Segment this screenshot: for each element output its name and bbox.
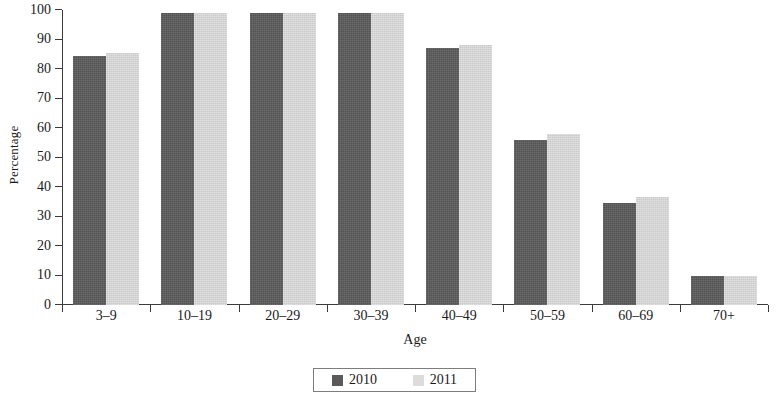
y-axis-tick: 30 bbox=[55, 216, 62, 217]
y-axis-title-text: Percentage bbox=[6, 125, 22, 184]
y-axis-tick-label: 100 bbox=[30, 3, 51, 17]
bar-group bbox=[592, 10, 680, 305]
x-axis-label: 10–19 bbox=[150, 308, 238, 324]
bar-2011-50–59 bbox=[547, 134, 580, 305]
y-axis-tick-label: 90 bbox=[37, 32, 51, 46]
y-axis-tick: 90 bbox=[55, 39, 62, 40]
y-axis-tick: 80 bbox=[55, 68, 62, 69]
bar-chart: Percentage 0102030405060708090100 3–910–… bbox=[0, 0, 779, 399]
bar-group bbox=[239, 10, 327, 305]
bar-group bbox=[327, 10, 415, 305]
legend-label-2011: 2011 bbox=[430, 373, 457, 387]
chart-legend: 2010 2011 bbox=[313, 368, 476, 392]
bar-2011-60–69 bbox=[636, 197, 669, 305]
bar-2010-60–69 bbox=[603, 203, 636, 305]
x-axis-label: 20–29 bbox=[239, 308, 327, 324]
x-axis-label: 30–39 bbox=[327, 308, 415, 324]
bar-2011-70+ bbox=[724, 276, 757, 306]
bar-2011-20–29 bbox=[283, 13, 316, 305]
legend-swatch-2011 bbox=[413, 375, 424, 386]
y-axis-tick-label: 70 bbox=[37, 91, 51, 105]
y-axis-tick: 0 bbox=[55, 304, 62, 305]
y-axis-tick-label: 60 bbox=[37, 121, 51, 135]
y-axis-tick: 50 bbox=[55, 157, 62, 158]
y-axis-tick-label: 0 bbox=[44, 298, 51, 312]
x-axis-title: Age bbox=[62, 332, 768, 348]
legend-item-2010: 2010 bbox=[332, 373, 377, 387]
bar-2011-30–39 bbox=[371, 13, 404, 305]
bar-2010-30–39 bbox=[338, 13, 371, 305]
y-axis-title: Percentage bbox=[2, 0, 26, 310]
y-axis-tick: 70 bbox=[55, 98, 62, 99]
bar-2011-40–49 bbox=[459, 45, 492, 305]
x-axis-label: 70+ bbox=[680, 308, 768, 324]
plot-area: 0102030405060708090100 bbox=[62, 10, 768, 305]
x-axis-labels: 3–910–1920–2930–3940–4950–5960–6970+ bbox=[62, 308, 768, 324]
y-axis-tick-label: 10 bbox=[37, 268, 51, 282]
y-axis-tick-label: 20 bbox=[37, 239, 51, 253]
y-axis-tick-label: 40 bbox=[37, 180, 51, 194]
bar-2010-20–29 bbox=[250, 13, 283, 305]
bar-group bbox=[680, 10, 768, 305]
y-axis-tick: 100 bbox=[55, 9, 62, 10]
bar-2010-40–49 bbox=[426, 48, 459, 305]
x-axis-tick bbox=[768, 305, 769, 312]
bar-2010-10–19 bbox=[161, 13, 194, 305]
bar-2011-3–9 bbox=[106, 53, 139, 305]
legend-label-2010: 2010 bbox=[349, 373, 377, 387]
bar-groups bbox=[62, 10, 768, 305]
x-axis-label: 40–49 bbox=[415, 308, 503, 324]
legend-item-2011: 2011 bbox=[413, 373, 457, 387]
y-axis-tick-label: 50 bbox=[37, 150, 51, 164]
bar-group bbox=[415, 10, 503, 305]
bar-group bbox=[62, 10, 150, 305]
y-axis-tick: 10 bbox=[55, 275, 62, 276]
bar-2011-10–19 bbox=[194, 13, 227, 305]
y-axis-tick: 40 bbox=[55, 186, 62, 187]
bar-group bbox=[150, 10, 238, 305]
x-axis-label: 3–9 bbox=[62, 308, 150, 324]
bar-2010-50–59 bbox=[514, 140, 547, 305]
x-axis-label: 60–69 bbox=[592, 308, 680, 324]
legend-swatch-2010 bbox=[332, 375, 343, 386]
y-axis-tick-label: 80 bbox=[37, 62, 51, 76]
x-axis-label: 50–59 bbox=[503, 308, 591, 324]
y-axis-tick-label: 30 bbox=[37, 209, 51, 223]
bar-group bbox=[503, 10, 591, 305]
y-axis-tick: 20 bbox=[55, 245, 62, 246]
bar-2010-3–9 bbox=[73, 56, 106, 305]
bar-2010-70+ bbox=[691, 276, 724, 305]
y-axis-tick: 60 bbox=[55, 127, 62, 128]
